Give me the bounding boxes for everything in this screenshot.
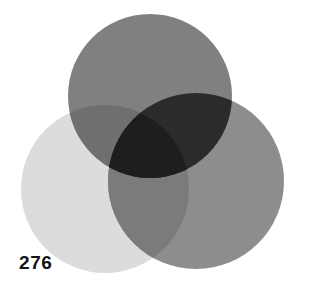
figure-container: 276 <box>0 0 310 296</box>
page-number: 276 <box>19 253 53 272</box>
